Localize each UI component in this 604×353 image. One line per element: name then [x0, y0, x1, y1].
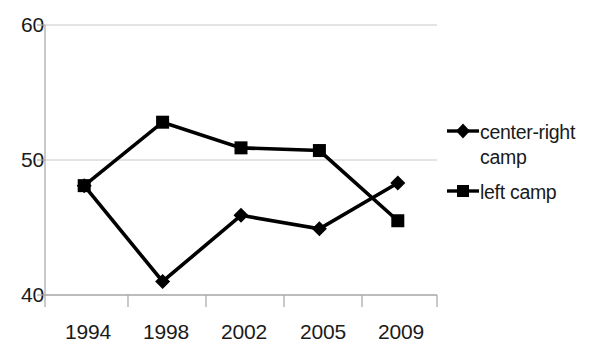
legend: center-rightcamp left camp	[447, 120, 604, 215]
data-point-square	[235, 141, 248, 154]
data-point-square	[391, 214, 404, 227]
legend-item-left-camp: left camp	[447, 180, 604, 205]
data-point-square	[313, 144, 326, 157]
legend-label-line1: center-right	[480, 121, 575, 143]
data-point-diamond	[312, 221, 327, 236]
data-point-square	[78, 179, 91, 192]
legend-label-line2: camp	[480, 146, 526, 168]
data-series-layer	[77, 116, 406, 289]
data-point-square	[156, 116, 169, 129]
series-line	[84, 183, 398, 282]
y-axis-ticks	[37, 25, 45, 295]
series-center-right-camp	[77, 175, 406, 289]
data-point-diamond	[390, 175, 405, 190]
line-chart: 60 50 40 1994 1998 2002 2005 2009	[0, 0, 604, 353]
x-axis-ticks	[45, 295, 437, 307]
legend-label-left-camp: left camp	[480, 180, 556, 205]
legend-label-center-right-camp: center-rightcamp	[480, 120, 575, 170]
gridlines	[45, 25, 437, 295]
series-line	[84, 122, 398, 221]
diamond-line-marker-icon	[447, 122, 479, 144]
legend-item-center-right-camp: center-rightcamp	[447, 120, 604, 170]
square-line-marker-icon	[447, 182, 479, 204]
